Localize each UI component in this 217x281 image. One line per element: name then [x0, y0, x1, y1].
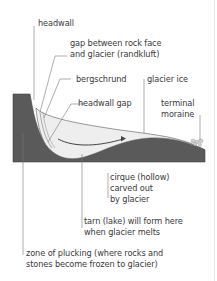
label-tarn-2: when glacier melts	[84, 227, 160, 238]
label-cirque-2: carved out	[110, 183, 153, 194]
label-randkluft-2: and glacier (randkluft)	[70, 49, 159, 60]
label-cirque: cirque (hollow)	[110, 172, 169, 183]
label-bergschrund: bergschrund	[76, 74, 126, 85]
label-glacier-ice: glacier ice	[147, 74, 188, 85]
label-terminal-moraine: terminal	[161, 98, 194, 109]
label-plucking: zone of plucking (where rocks and	[26, 248, 163, 259]
label-randkluft: gap between rock face	[70, 38, 161, 49]
label-headwall: headwall	[38, 18, 74, 29]
label-tarn: tarn (lake) will form here	[84, 216, 183, 227]
label-terminal-moraine-2: moraine	[161, 109, 194, 120]
label-headwall-gap: headwall gap	[78, 98, 132, 109]
label-cirque-3: by glacier	[110, 194, 149, 205]
label-plucking-2: stones become frozen to glacier)	[26, 259, 158, 270]
